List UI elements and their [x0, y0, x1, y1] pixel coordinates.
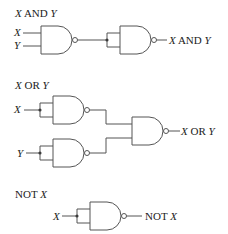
not-heading: NOT X	[15, 188, 48, 200]
not-section: NOT X X NOT X	[15, 188, 178, 230]
not-tied-inputs	[77, 209, 90, 223]
or-output-label: X OR Y	[180, 125, 217, 137]
or-y-tied-inputs	[40, 146, 53, 160]
nand-gate-not	[90, 202, 127, 230]
and-heading: X AND Y	[14, 7, 58, 19]
nand-gate-or-y	[53, 139, 90, 167]
nand-bubble	[152, 38, 157, 43]
nand-body	[53, 139, 84, 167]
nand-bubble	[73, 38, 78, 43]
nand-body	[90, 202, 121, 230]
nand-body	[132, 117, 163, 145]
not-output-label: NOT X	[145, 210, 178, 222]
nand-bubble	[85, 151, 90, 156]
nand-bubble	[85, 108, 90, 113]
and-section: X AND Y X Y X AND Y	[13, 7, 212, 54]
or-bottom-wire	[90, 138, 133, 153]
nand-gate-2	[120, 26, 157, 54]
and-input-x-label: X	[13, 26, 22, 38]
and-tied-inputs	[107, 33, 120, 47]
or-x-tied-inputs	[40, 103, 53, 117]
nand-gate-or-x	[53, 96, 90, 124]
nand-gate-1	[41, 26, 78, 54]
or-top-wire	[90, 110, 133, 124]
or-section: X OR Y X Y X OR Y	[13, 79, 217, 167]
nand-body	[53, 96, 84, 124]
nand-logic-diagram: X AND Y X Y X AND Y X OR Y X	[0, 0, 228, 234]
nand-bubble	[164, 129, 169, 134]
and-input-y-label: Y	[14, 39, 22, 51]
nand-gate-or-final	[132, 117, 169, 145]
or-heading: X OR Y	[14, 79, 51, 91]
and-output-label: X AND Y	[168, 34, 212, 46]
nand-bubble	[122, 214, 127, 219]
nand-body	[41, 26, 72, 54]
or-input-x-label: X	[13, 103, 22, 115]
nand-body	[120, 26, 151, 54]
not-input-x-label: X	[52, 210, 61, 222]
or-input-y-label: Y	[17, 147, 25, 159]
